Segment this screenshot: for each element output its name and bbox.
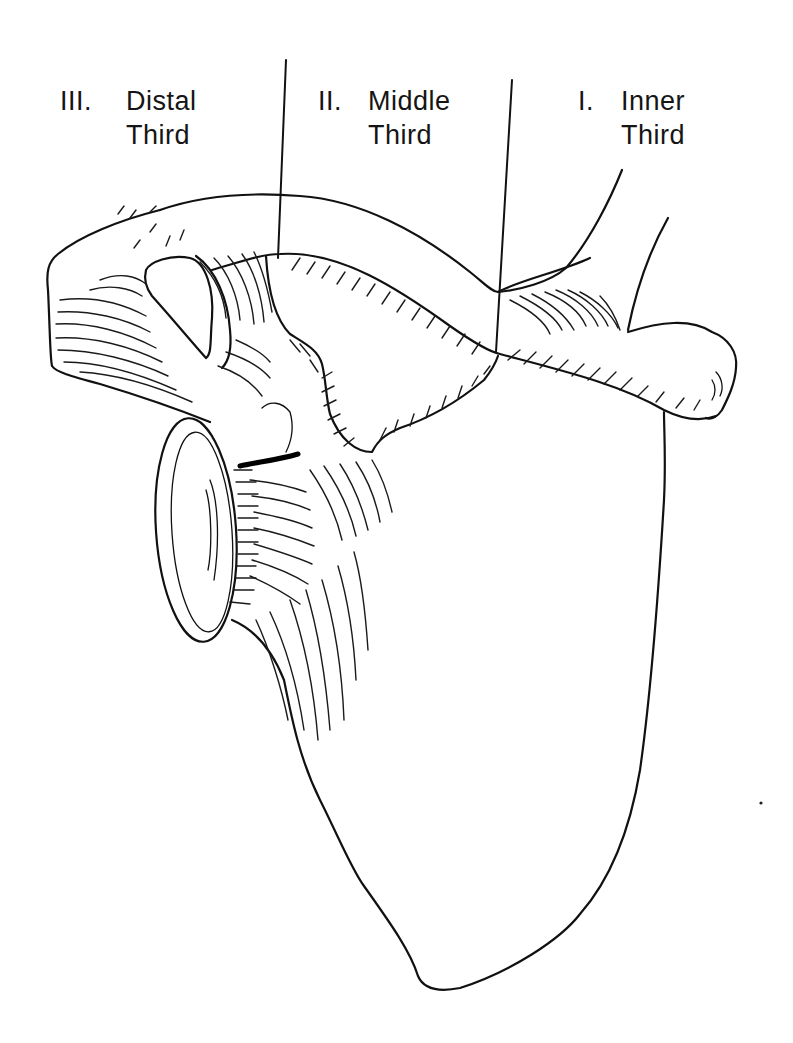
divider-distal-middle bbox=[278, 60, 286, 258]
stray-dot bbox=[759, 801, 762, 804]
label-line2: Third bbox=[578, 118, 685, 152]
clavicle bbox=[160, 170, 736, 419]
scapula-body bbox=[232, 412, 665, 990]
label-numeral: III. bbox=[60, 84, 126, 118]
divider-middle-inner bbox=[496, 80, 512, 352]
glenoid-fossa bbox=[148, 415, 314, 644]
label-numeral: I. bbox=[578, 84, 621, 118]
scapula-clavicle-drawing bbox=[0, 0, 793, 1043]
label-distal-third: III.Distal Third bbox=[60, 84, 197, 152]
acromion bbox=[47, 206, 498, 466]
label-line2: Third bbox=[318, 118, 451, 152]
anatomical-illustration: III.Distal Third II.Middle Third I.Inner… bbox=[0, 0, 793, 1043]
label-line1: Inner bbox=[621, 86, 685, 116]
label-middle-third: II.Middle Third bbox=[318, 84, 451, 152]
label-line2: Third bbox=[60, 118, 197, 152]
label-inner-third: I.Inner Third bbox=[578, 84, 685, 152]
label-line1: Middle bbox=[368, 86, 451, 116]
label-line1: Distal bbox=[126, 86, 197, 116]
label-numeral: II. bbox=[318, 84, 368, 118]
